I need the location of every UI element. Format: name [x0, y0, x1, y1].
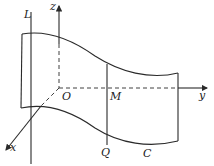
surface-bottom-curve-C	[21, 106, 178, 144]
surface-left-edge	[21, 34, 22, 108]
label-O: O	[62, 90, 71, 103]
cylindrical-surface-diagram: L z O M y x Q C	[0, 0, 214, 166]
surface-top-curve	[22, 33, 178, 76]
x-axis-dashed	[41, 88, 59, 106]
label-z: z	[49, 0, 56, 13]
label-x: x	[10, 141, 17, 154]
label-M: M	[109, 90, 122, 103]
diagram-canvas: L z O M y x Q C	[0, 0, 214, 166]
label-y: y	[198, 89, 206, 102]
label-C: C	[143, 147, 152, 160]
label-Q: Q	[101, 146, 110, 159]
label-L: L	[23, 8, 31, 21]
